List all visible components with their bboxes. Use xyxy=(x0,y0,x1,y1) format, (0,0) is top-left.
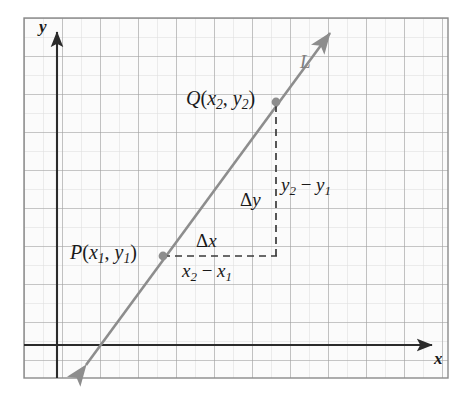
run-expression-label: x2 − x1 xyxy=(182,261,232,284)
x-axis-label: x xyxy=(434,350,443,367)
point-P-label: P(x1, y1) xyxy=(70,242,137,265)
y-axis-label: y xyxy=(39,18,47,35)
point-P-marker xyxy=(159,252,168,261)
delta-y-label: Δy xyxy=(240,190,261,209)
rise-expression-label: y2 − y1 xyxy=(281,175,331,198)
point-Q-marker xyxy=(272,98,281,107)
diagram-canvas xyxy=(0,0,473,396)
line-L-label: L xyxy=(300,52,311,71)
grid-area xyxy=(24,18,448,378)
slope-diagram-figure: y x L Q(x2, y2) P(x1, y1) Δx Δy x2 − x1 … xyxy=(0,0,473,396)
delta-x-label: Δx xyxy=(196,231,217,250)
point-Q-label: Q(x2, y2) xyxy=(186,88,255,111)
